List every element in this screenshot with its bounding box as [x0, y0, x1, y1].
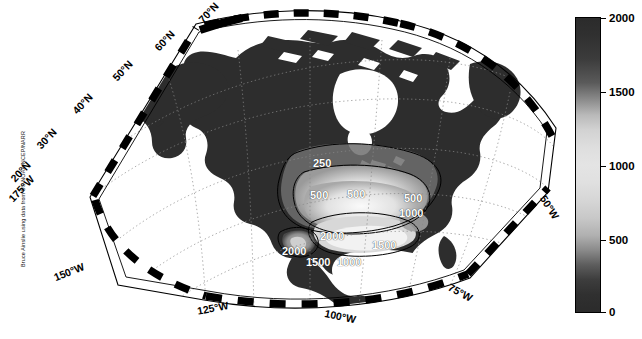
colorbar-tick-0: [601, 312, 606, 313]
colorbar-tick-2000: [601, 18, 606, 19]
contour-label-500-b: 500: [347, 188, 365, 200]
colorbar-label-1000: 1000: [609, 160, 635, 172]
map-canvas: [0, 0, 642, 339]
contour-label-250: 250: [313, 157, 331, 169]
contour-label-2000-a: 2000: [320, 230, 344, 242]
colorbar-tick-1500: [601, 92, 606, 93]
contour-label-1000-b: 1000: [337, 256, 361, 268]
contour-label-500-c: 500: [404, 192, 422, 204]
colorbar: 2000 1500 1000 500 0: [575, 17, 601, 313]
colorbar-gradient: [575, 17, 601, 313]
colorbar-label-0: 0: [609, 306, 615, 318]
colorbar-label-1500: 1500: [609, 86, 635, 98]
contour-label-1500-a: 1500: [372, 239, 396, 251]
contour-label-1000-a: 1000: [399, 207, 423, 219]
figure-root: 70°N 60°N 50°N 40°N 30°N 20°N 175°W 150°…: [0, 0, 642, 339]
credit-text: Bruce Ainslie using data from US NOAA/NC…: [20, 124, 26, 274]
contour-label-2000-b: 2000: [282, 245, 306, 257]
contour-label-1500-b: 1500: [306, 256, 330, 268]
colorbar-label-2000: 2000: [609, 12, 635, 24]
colorbar-label-500: 500: [609, 234, 628, 246]
colorbar-tick-1000: [601, 166, 606, 167]
contour-label-500-a: 500: [310, 189, 328, 201]
colorbar-tick-500: [601, 240, 606, 241]
